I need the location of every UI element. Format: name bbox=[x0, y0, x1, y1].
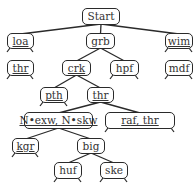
node-label: huf bbox=[59, 165, 76, 176]
node-label: N•exw, N•skw bbox=[19, 115, 97, 126]
node-label: Start bbox=[88, 11, 115, 22]
node-label: hpf bbox=[116, 63, 133, 74]
node-label: thr bbox=[12, 63, 28, 74]
node-label: pth bbox=[45, 90, 63, 101]
tree-node-start: Start bbox=[82, 8, 120, 25]
tree-node-grb: grb bbox=[86, 33, 115, 49]
node-label: raf, thr bbox=[121, 115, 158, 126]
node-label: loa bbox=[13, 36, 29, 47]
node-label: thr bbox=[92, 90, 108, 101]
tree-node-huf: huf bbox=[54, 162, 82, 179]
tree-node-nexw: N•exw, N•skw bbox=[24, 112, 93, 129]
node-label: mdf bbox=[169, 63, 190, 74]
tree-node-loa: loa bbox=[7, 33, 34, 49]
tree-node-mdf: mdf bbox=[165, 60, 193, 76]
tree-node-big: big bbox=[77, 138, 105, 154]
tree-node-thr2: thr bbox=[87, 87, 114, 103]
tree-node-crk: crk bbox=[62, 60, 91, 76]
tree-node-hpf: hpf bbox=[110, 60, 139, 76]
node-label: big bbox=[83, 141, 100, 152]
tree-node-wim: wim bbox=[165, 33, 193, 49]
tree-node-pth: pth bbox=[40, 87, 68, 103]
node-label: kgr bbox=[16, 141, 34, 152]
tree-node-ske: ske bbox=[100, 162, 128, 179]
tree-node-thr1: thr bbox=[7, 60, 34, 76]
tree-node-kgr: kgr bbox=[12, 138, 39, 154]
node-label: ske bbox=[105, 165, 123, 176]
node-label: grb bbox=[91, 36, 109, 47]
node-label: wim bbox=[168, 36, 190, 47]
node-label: crk bbox=[68, 63, 85, 74]
tree-diagram: StartloagrbwimthrcrkhpfmdfpththrN•exw, N… bbox=[0, 0, 195, 188]
tree-node-rafthr: raf, thr bbox=[105, 112, 175, 129]
